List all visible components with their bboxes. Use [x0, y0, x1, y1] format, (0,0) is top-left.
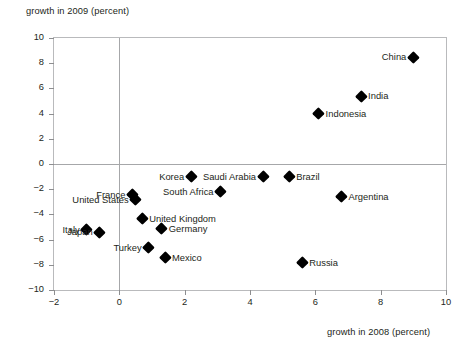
y-axis-tick-label: −10 — [14, 284, 44, 294]
scatter-chart-figure: growth in 2009 (percent) 1086420−2−4−6−8… — [0, 0, 475, 345]
y-axis-tick — [49, 139, 54, 140]
x-axis-tick-label: 2 — [165, 297, 205, 307]
x-axis-tick — [185, 290, 186, 295]
y-axis-tick-label: 6 — [14, 82, 44, 92]
y-axis-title: growth in 2009 (percent) — [26, 6, 129, 16]
y-axis-tick-label: 2 — [14, 133, 44, 143]
x-axis-tick-label: 10 — [426, 297, 466, 307]
y-axis-tick — [49, 240, 54, 241]
data-point-label: United States — [72, 195, 128, 204]
x-axis-tick — [446, 290, 447, 295]
data-point-marker-diamond-icon — [407, 51, 419, 63]
data-point-marker-diamond-icon — [143, 241, 155, 253]
data-point-label: Russia — [309, 258, 338, 267]
data-point-marker-diamond-icon — [156, 222, 168, 234]
data-point-label: Brazil — [296, 172, 319, 181]
y-axis-tick — [49, 63, 54, 64]
data-point-label: South Africa — [163, 187, 214, 196]
data-point-marker-diamond-icon — [185, 170, 197, 182]
data-point-marker-diamond-icon — [94, 226, 106, 238]
y-axis-tick — [49, 38, 54, 39]
y-axis-tick — [49, 265, 54, 266]
x-axis-tick — [250, 290, 251, 295]
data-point-label: United Kingdom — [149, 214, 216, 223]
data-point-marker-diamond-icon — [355, 90, 367, 102]
data-point-marker-diamond-icon — [296, 256, 308, 268]
data-point-label: Mexico — [172, 253, 202, 262]
data-point-label: China — [382, 52, 407, 61]
y-axis-tick — [49, 214, 54, 215]
data-point-marker-diamond-icon — [312, 107, 324, 119]
y-axis-tick — [49, 88, 54, 89]
data-point-label: Argentina — [348, 192, 388, 201]
data-point-marker-diamond-icon — [136, 212, 148, 224]
data-point-label: Korea — [159, 172, 184, 181]
x-axis-title: growth in 2008 (percent) — [327, 327, 430, 337]
data-point-label: Germany — [169, 224, 208, 233]
x-axis-tick-label: 8 — [361, 297, 401, 307]
data-point-marker-diamond-icon — [283, 170, 295, 182]
y-axis-tick-label: 10 — [14, 32, 44, 42]
data-point-label: Indonesia — [326, 109, 367, 118]
y-axis-tick-label: −8 — [14, 259, 44, 269]
y-axis-tick — [49, 114, 54, 115]
x-axis-tick — [381, 290, 382, 295]
x-axis-tick-label: −2 — [34, 297, 74, 307]
zero-line-horizontal — [54, 164, 446, 165]
y-axis-tick-label: 8 — [14, 57, 44, 67]
x-axis-tick-label: 6 — [295, 297, 335, 307]
data-point-marker-diamond-icon — [257, 170, 269, 182]
data-point-label: Japan — [67, 227, 93, 236]
y-axis-tick-label: 4 — [14, 108, 44, 118]
data-point-label: Turkey — [113, 243, 141, 252]
data-point-label: India — [368, 91, 388, 100]
y-axis-tick-label: −4 — [14, 208, 44, 218]
data-point-label: Saudi Arabia — [203, 172, 256, 181]
y-axis-tick-label: −6 — [14, 234, 44, 244]
data-point-marker-diamond-icon — [159, 251, 171, 263]
data-point-marker-diamond-icon — [335, 191, 347, 203]
y-axis-tick — [49, 189, 54, 190]
x-axis-tick — [315, 290, 316, 295]
x-axis-tick — [54, 290, 55, 295]
plot-area: 1086420−2−4−6−8−10−20246810ChinaIndiaInd… — [53, 37, 447, 291]
data-point-marker-diamond-icon — [214, 186, 226, 198]
y-axis-tick — [49, 164, 54, 165]
x-axis-tick — [119, 290, 120, 295]
y-axis-tick-label: −2 — [14, 183, 44, 193]
x-axis-tick-label: 4 — [230, 297, 270, 307]
y-axis-tick-label: 0 — [14, 158, 44, 168]
x-axis-tick-label: 0 — [99, 297, 139, 307]
